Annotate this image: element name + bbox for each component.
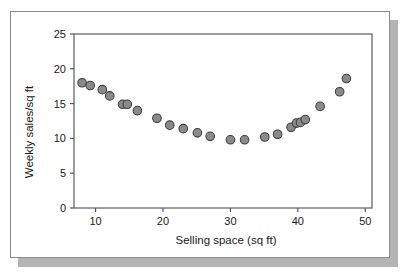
x-axis-ticks: 1020304050 [89, 208, 371, 227]
data-point-marker [273, 130, 282, 139]
x-tick-label: 30 [224, 215, 236, 227]
data-point-marker [123, 100, 132, 109]
data-point-marker [335, 87, 344, 96]
data-point-marker [78, 78, 87, 87]
plot-frame-rect [74, 34, 372, 208]
data-point-marker [240, 135, 249, 144]
data-point-marker [342, 74, 351, 83]
y-tick-label: 25 [54, 28, 66, 40]
y-tick-label: 0 [60, 202, 66, 214]
chart-plot-area: 0510152025 1020304050 Weekly sales/sq ft… [11, 12, 391, 259]
data-point-marker [133, 106, 142, 115]
x-tick-label: 10 [89, 215, 101, 227]
y-axis-title: Weekly sales/sq ft [23, 85, 35, 178]
screenshot-page: 0510152025 1020304050 Weekly sales/sq ft… [0, 0, 407, 276]
x-axis-title: Selling space (sq ft) [176, 234, 277, 246]
y-axis-ticks: 0510152025 [54, 28, 74, 214]
x-tick-label: 20 [157, 215, 169, 227]
scatter-plot-figure: 0510152025 1020304050 Weekly sales/sq ft… [10, 11, 390, 258]
data-point-marker [226, 135, 235, 144]
data-point-marker [316, 102, 325, 111]
data-point-marker [98, 85, 107, 94]
y-tick-label: 10 [54, 132, 66, 144]
scatter-chart-svg: 0510152025 1020304050 Weekly sales/sq ft… [11, 12, 391, 259]
data-point-marker [206, 132, 215, 141]
data-point-marker [301, 115, 310, 124]
plot-frame [74, 34, 372, 208]
data-point-marker [261, 133, 270, 142]
x-tick-label: 50 [359, 215, 371, 227]
data-point-marker [153, 114, 162, 123]
data-point-marker [165, 121, 174, 130]
data-point-markers [78, 74, 351, 144]
data-point-marker [179, 124, 188, 133]
data-point-marker [105, 92, 114, 101]
y-tick-label: 15 [54, 98, 66, 110]
y-tick-label: 20 [54, 63, 66, 75]
x-tick-label: 40 [292, 215, 304, 227]
data-point-marker [86, 81, 95, 90]
data-point-marker [193, 129, 202, 138]
y-tick-label: 5 [60, 167, 66, 179]
